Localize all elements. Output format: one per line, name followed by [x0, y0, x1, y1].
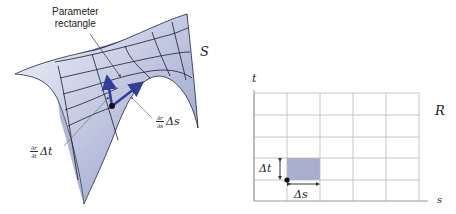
parameter-rectangle-label: Parameter rectangle: [52, 6, 99, 30]
surface-s: [15, 14, 198, 204]
partial-s-fraction: ∂r ∂s: [156, 114, 164, 129]
diagram-canvas: [0, 0, 456, 214]
surface-label-s: S: [200, 44, 209, 59]
delta-s-label: Δs: [294, 188, 308, 201]
parameter-grid: [254, 90, 428, 201]
s-axis-label: s: [437, 194, 442, 205]
partial-t-fraction: ∂r ∂t: [30, 144, 38, 159]
partial-t-label: ∂r ∂t Δt: [30, 144, 52, 159]
region-label-r: R: [435, 103, 445, 118]
t-axis-label: t: [252, 72, 256, 85]
delta-t-label: Δt: [259, 162, 271, 175]
callout-ds-arrow: [132, 98, 152, 118]
corner-point: [284, 177, 289, 182]
partial-s-label: ∂r ∂s Δs: [156, 114, 180, 129]
parameter-rectangle-cell: [287, 158, 320, 180]
base-point: [109, 103, 115, 109]
